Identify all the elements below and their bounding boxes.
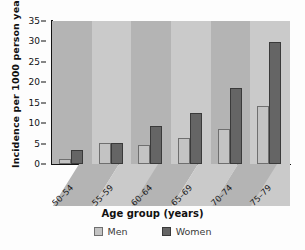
chart-legend: Men Women bbox=[0, 226, 305, 237]
y-tick-mark bbox=[41, 82, 46, 83]
bar-women-65–69 bbox=[190, 113, 202, 164]
bar-men-65–69 bbox=[178, 138, 190, 164]
y-tick-label: 15 bbox=[29, 98, 40, 108]
legend-swatch-women-icon bbox=[162, 227, 171, 236]
x-axis-title: Age group (years) bbox=[0, 208, 305, 219]
y-axis-title: Incidence per 1000 person years bbox=[10, 18, 21, 168]
y-tick-mark bbox=[41, 164, 46, 165]
chart-figure: Incidence per 1000 person years 05101520… bbox=[0, 0, 305, 250]
bar-men-75–79 bbox=[257, 106, 269, 164]
legend-item-men: Men bbox=[94, 226, 128, 237]
y-tick-label: 35 bbox=[29, 16, 40, 26]
plot-band bbox=[52, 21, 92, 164]
bar-women-75–79 bbox=[269, 42, 281, 164]
y-tick-label: 5 bbox=[34, 139, 40, 149]
y-tick-mark bbox=[41, 102, 46, 103]
x-axis-tick-strip: 50–5455–5960–6465–6970–7475–79 bbox=[52, 164, 290, 206]
bar-women-70–74 bbox=[230, 88, 242, 164]
y-tick-label: 20 bbox=[29, 77, 40, 87]
y-tick-mark bbox=[41, 41, 46, 42]
y-tick-label: 25 bbox=[29, 57, 40, 67]
y-axis-title-container: Incidence per 1000 person years bbox=[2, 18, 28, 168]
bar-women-50–54 bbox=[71, 150, 83, 164]
y-tick-mark bbox=[41, 21, 46, 22]
legend-label-men: Men bbox=[108, 226, 128, 237]
y-tick-mark bbox=[41, 123, 46, 124]
y-tick-label: 10 bbox=[29, 118, 40, 128]
legend-swatch-men-icon bbox=[94, 227, 103, 236]
bar-men-70–74 bbox=[218, 129, 230, 164]
y-tick-label: 0 bbox=[34, 159, 40, 169]
bar-women-60–64 bbox=[150, 126, 162, 164]
legend-label-women: Women bbox=[176, 226, 212, 237]
bar-men-55–59 bbox=[99, 143, 111, 164]
bar-women-55–59 bbox=[111, 143, 123, 164]
plot-area bbox=[52, 21, 290, 164]
y-tick-label: 30 bbox=[29, 36, 40, 46]
bar-men-60–64 bbox=[138, 145, 150, 164]
legend-item-women: Women bbox=[162, 226, 212, 237]
y-tick-mark bbox=[41, 143, 46, 144]
y-tick-mark bbox=[41, 61, 46, 62]
